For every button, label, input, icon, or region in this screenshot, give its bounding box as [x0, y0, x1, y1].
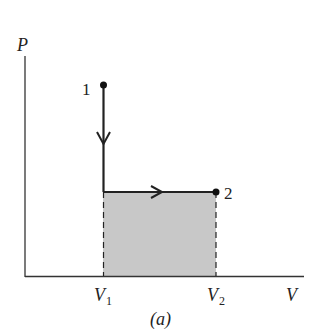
work-area-shading — [103, 192, 216, 276]
pv-diagram: P 1 2 V 1 V 2 V (a) — [0, 0, 325, 331]
point-1-label: 1 — [82, 80, 91, 99]
v2-subscript: 2 — [219, 294, 225, 308]
v1-subscript: 1 — [106, 294, 112, 308]
p-axis-label: P — [16, 35, 28, 55]
figure-caption: (a) — [150, 309, 171, 330]
point-2-marker — [213, 189, 220, 196]
point-1-marker — [100, 82, 107, 89]
v-axis-label: V — [286, 285, 299, 305]
point-2-label: 2 — [224, 184, 233, 203]
